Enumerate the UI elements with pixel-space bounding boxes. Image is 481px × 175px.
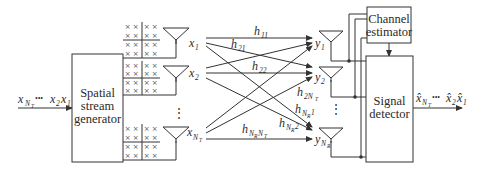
channel-label-h21: h 21 — [231, 37, 246, 53]
rx-label-1: y 1 — [314, 36, 325, 52]
channel-estimator-block: Channel estimator — [366, 7, 413, 43]
svg-text:×: × — [152, 41, 158, 49]
svg-text:x̂: x̂ — [415, 91, 422, 105]
svg-text:×: × — [133, 79, 139, 87]
mimo-diagram: x N T ••• x 2 x 1 Spatial stream generat… — [0, 0, 481, 175]
svg-text:Channel: Channel — [368, 12, 410, 26]
svg-text:×: × — [125, 134, 131, 142]
svg-text:x: x — [60, 92, 67, 106]
svg-text:×: × — [144, 50, 150, 58]
svg-text:Spatial: Spatial — [80, 86, 115, 100]
resource-grid-1: ×××××××××××××××× — [123, 22, 176, 58]
svg-text:×: × — [152, 70, 158, 78]
svg-text:×: × — [125, 152, 131, 160]
svg-text:T: T — [264, 133, 268, 139]
svg-text:×: × — [144, 143, 150, 151]
svg-text:1: 1 — [311, 108, 315, 117]
svg-text:×: × — [152, 62, 158, 70]
rx-feed-lines — [331, 14, 367, 159]
svg-text:×: × — [125, 62, 131, 70]
svg-text:×: × — [125, 87, 131, 95]
svg-text:×: × — [125, 32, 131, 40]
svg-text:x: x — [188, 66, 195, 80]
channel-label-h11: h 11 — [254, 24, 268, 40]
svg-text:×: × — [133, 32, 139, 40]
svg-text:×: × — [152, 143, 158, 151]
svg-text:×: × — [133, 70, 139, 78]
svg-text:×: × — [125, 79, 131, 87]
svg-text:T: T — [315, 96, 319, 102]
svg-text:×: × — [144, 79, 150, 87]
svg-text:N: N — [24, 99, 31, 108]
svg-text:×: × — [152, 134, 158, 142]
svg-text:×: × — [133, 152, 139, 160]
tx-antenna-icon-2 — [163, 66, 189, 82]
svg-text:×: × — [152, 32, 158, 40]
svg-text:x: x — [17, 92, 24, 106]
tx-antenna-icon-3 — [163, 127, 189, 143]
svg-text:x̂: x̂ — [456, 91, 463, 105]
svg-text:×: × — [144, 32, 150, 40]
svg-text:N: N — [421, 98, 428, 107]
channel-label-h22: h 22 — [252, 59, 267, 75]
svg-text:stream: stream — [81, 99, 115, 113]
input-symbol-label: x N T ••• x 2 x 1 — [17, 92, 71, 109]
svg-text:2: 2 — [321, 77, 325, 86]
resource-grids: ××××××××××××××××××××××××××××××××××××××××… — [123, 22, 176, 160]
svg-text:2: 2 — [195, 73, 199, 82]
svg-text:detector: detector — [369, 107, 410, 121]
resource-grid-3: ×××××××××××××××× — [123, 124, 176, 160]
svg-text:×: × — [125, 23, 131, 31]
svg-text:2N: 2N — [304, 92, 314, 101]
rx-label-2: y 2 — [314, 70, 325, 86]
signal-detector-block: Signal detector — [366, 56, 413, 162]
svg-text:×: × — [133, 41, 139, 49]
svg-text:h: h — [295, 102, 301, 116]
svg-text:×: × — [133, 143, 139, 151]
svg-text:×: × — [152, 23, 158, 31]
svg-text:1: 1 — [67, 99, 71, 108]
svg-text:×: × — [144, 70, 150, 78]
svg-text:×: × — [133, 62, 139, 70]
svg-text:•••: ••• — [35, 94, 43, 103]
svg-text:N: N — [192, 133, 199, 142]
svg-text:11: 11 — [261, 31, 268, 40]
svg-text:×: × — [125, 70, 131, 78]
tx-vdots: ⋮ — [173, 106, 185, 120]
svg-text:×: × — [152, 79, 158, 87]
svg-text:21: 21 — [238, 44, 246, 53]
tx-label-1: x 1 — [188, 36, 199, 52]
svg-text:×: × — [144, 152, 150, 160]
svg-text:generator: generator — [74, 112, 122, 126]
svg-text:2: 2 — [56, 99, 60, 108]
svg-text:×: × — [144, 62, 150, 70]
svg-text:×: × — [125, 143, 131, 151]
svg-text:x: x — [49, 92, 56, 106]
svg-text:1: 1 — [463, 98, 467, 107]
svg-text:y: y — [314, 70, 321, 84]
svg-text:1: 1 — [195, 43, 199, 52]
svg-text:×: × — [152, 87, 158, 95]
svg-text:×: × — [152, 50, 158, 58]
svg-text:×: × — [152, 125, 158, 133]
tx-label-2: x 2 — [188, 66, 199, 82]
svg-text:2: 2 — [295, 122, 299, 131]
svg-text:22: 22 — [259, 66, 267, 75]
svg-text:R: R — [326, 143, 331, 149]
svg-text:Signal: Signal — [374, 94, 406, 108]
svg-text:T: T — [199, 137, 203, 143]
svg-text:×: × — [133, 23, 139, 31]
svg-text:×: × — [133, 134, 139, 142]
rx-vdots: ⋮ — [330, 102, 342, 116]
svg-text:•••: ••• — [432, 93, 440, 102]
svg-text:1: 1 — [321, 43, 325, 52]
svg-text:y: y — [314, 132, 321, 146]
svg-text:×: × — [144, 41, 150, 49]
svg-text:×: × — [144, 87, 150, 95]
tx-antenna-icon-1 — [163, 28, 189, 44]
svg-text:h: h — [252, 59, 258, 73]
svg-text:h: h — [254, 24, 260, 38]
svg-text:x: x — [186, 125, 193, 139]
svg-text:×: × — [133, 50, 139, 58]
channel-label-hnrnt: h N R N T — [242, 122, 268, 139]
